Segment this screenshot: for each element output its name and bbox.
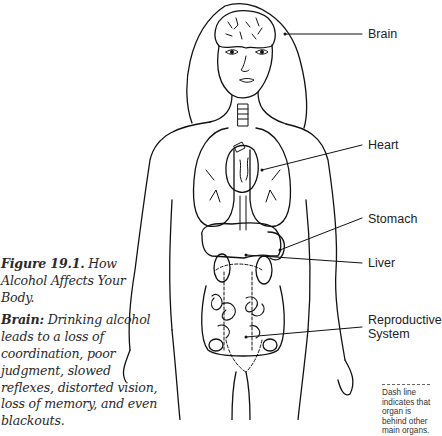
left-lung [194, 128, 234, 226]
reproductive-label-line1: Reproductive [368, 313, 442, 327]
right-lung [250, 128, 290, 226]
heart-label: Heart [368, 138, 399, 152]
dash-legend: Dash line indicates that organ is behind… [382, 384, 436, 436]
reproductive-label-line2: System [368, 327, 442, 341]
heart-pointer [262, 145, 362, 170]
liver-organ [202, 223, 281, 258]
reproductive-label: Reproductive System [368, 313, 442, 341]
intestines [202, 286, 285, 356]
stomach-label: Stomach [368, 212, 417, 226]
figure-number: Figure 19.1. [1, 256, 84, 271]
description-term: Brain: [1, 312, 44, 327]
description-text: Drinking alcohol leads to a loss of coor… [1, 312, 157, 428]
heart-icon [226, 146, 258, 193]
liver-label: Liver [368, 256, 395, 270]
liver-pointer [246, 255, 362, 263]
brain-icon [215, 11, 275, 48]
dash-legend-text: Dash line indicates that organ is behind… [382, 388, 436, 436]
stomach-pointer [280, 218, 362, 250]
figure-caption: Figure 19.1. How Alcohol Affects Your Bo… [1, 256, 159, 430]
brain-label: Brain [368, 27, 397, 41]
dash-line-sample [382, 384, 430, 385]
reproductive-pointer [246, 327, 362, 337]
